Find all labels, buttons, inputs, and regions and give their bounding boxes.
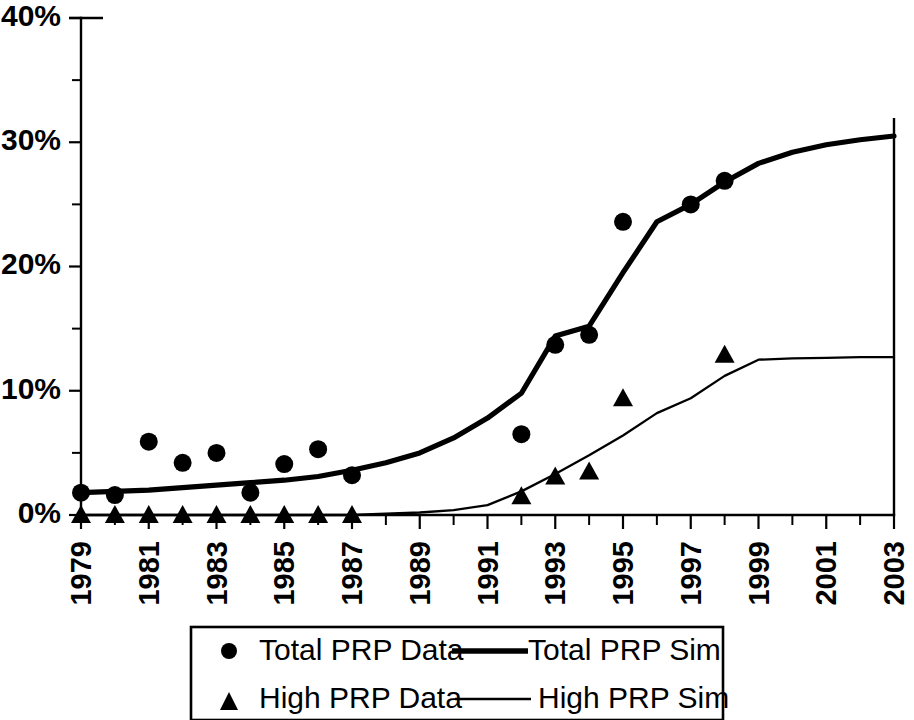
chart-series <box>71 136 894 523</box>
x-axis-ticks <box>81 515 894 529</box>
y-axis-tick-labels: 0%10%20%30%40% <box>1 0 61 529</box>
circle-marker-icon <box>221 643 237 659</box>
x-tick-label: 1981 <box>133 541 165 606</box>
x-tick-label: 1993 <box>539 541 571 606</box>
data-point-marker <box>512 425 530 443</box>
data-point-marker <box>106 486 124 504</box>
x-tick-label: 1999 <box>743 541 775 606</box>
legend-label-high-prp-sim: High PRP Sim <box>538 681 729 714</box>
x-tick-label: 1995 <box>607 541 639 606</box>
triangle-marker-icon <box>220 692 238 710</box>
y-tick-label: 30% <box>1 123 61 156</box>
x-tick-label: 1985 <box>268 541 300 606</box>
x-tick-label: 1979 <box>65 541 97 606</box>
y-tick-label: 20% <box>1 247 61 280</box>
high-prp-data-markers <box>71 345 735 523</box>
data-point-marker <box>546 336 564 354</box>
y-tick-label: 10% <box>1 372 61 405</box>
legend-label-total-prp-sim: Total PRP Sim <box>528 633 721 666</box>
chart-figure: 0%10%20%30%40% 1979198119831985198719891… <box>0 0 914 720</box>
x-axis-tick-labels: 1979198119831985198719891991199319951997… <box>65 541 910 606</box>
data-point-marker <box>715 345 735 363</box>
data-point-marker <box>343 466 361 484</box>
data-point-marker <box>613 388 633 406</box>
data-point-marker <box>275 455 293 473</box>
y-tick-label: 40% <box>1 0 61 32</box>
data-point-marker <box>140 433 158 451</box>
data-point-marker <box>580 326 598 344</box>
data-point-marker <box>174 454 192 472</box>
x-tick-label: 1991 <box>472 541 504 606</box>
data-point-marker <box>579 462 599 480</box>
legend-label-high-prp-data: High PRP Data <box>259 681 462 714</box>
data-point-marker <box>208 444 226 462</box>
high-prp-sim-line <box>81 357 894 515</box>
data-point-marker <box>716 172 734 190</box>
data-point-marker <box>309 440 327 458</box>
x-tick-label: 1983 <box>201 541 233 606</box>
prp-adoption-line-chart: 0%10%20%30%40% 1979198119831985198719891… <box>0 0 914 720</box>
x-tick-label: 1997 <box>675 541 707 606</box>
y-tick-label: 0% <box>18 496 61 529</box>
legend-label-total-prp-data: Total PRP Data <box>259 633 464 666</box>
x-tick-label: 2003 <box>878 541 910 606</box>
x-tick-label: 1987 <box>336 541 368 606</box>
y-axis-ticks <box>69 18 81 515</box>
chart-legend: Total PRP Data Total PRP Sim High PRP Da… <box>191 627 729 720</box>
data-point-marker <box>241 484 259 502</box>
data-point-marker <box>614 213 632 231</box>
data-point-marker <box>682 195 700 213</box>
total-prp-sim-line <box>81 136 894 493</box>
total-prp-data-markers <box>72 172 734 504</box>
data-point-marker <box>72 484 90 502</box>
x-tick-label: 2001 <box>810 541 842 606</box>
x-tick-label: 1989 <box>404 541 436 606</box>
